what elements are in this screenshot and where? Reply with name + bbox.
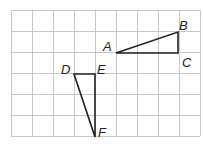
grid <box>11 10 201 137</box>
label-c: C <box>182 55 192 70</box>
grid-diagram: A B C D E F <box>0 0 203 149</box>
label-d: D <box>61 62 70 77</box>
label-b: B <box>179 18 188 33</box>
label-a: A <box>102 39 112 54</box>
triangle-def <box>74 74 95 137</box>
triangle-abc <box>116 32 178 53</box>
label-e: E <box>97 62 106 77</box>
label-f: F <box>98 125 107 140</box>
